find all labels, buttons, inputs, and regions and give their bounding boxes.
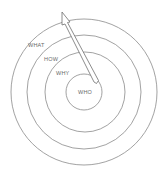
golden-circle-diagram: WHAT HOW WHY WHO	[0, 0, 168, 187]
label-how: HOW	[44, 56, 59, 62]
label-who: WHO	[78, 89, 93, 95]
label-what: WHAT	[28, 42, 45, 48]
label-why: WHY	[56, 70, 70, 76]
